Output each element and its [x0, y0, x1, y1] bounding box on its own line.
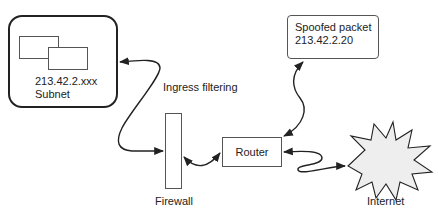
spoofed-packet-address: 213.42.2.20 — [295, 34, 378, 47]
internet-label: Internet — [367, 195, 404, 208]
host-icon-front — [48, 47, 88, 70]
subnet-address: 213.42.2.xxx — [35, 75, 97, 88]
router-node: Router — [222, 137, 282, 167]
subnet-label: Subnet — [35, 88, 70, 101]
edge-router-internet — [284, 151, 345, 172]
ingress-filtering-label: Ingress filtering — [163, 81, 238, 94]
spoofed-packet-title: Spoofed packet — [295, 21, 378, 34]
edge-spoofed-router — [284, 62, 304, 136]
firewall-node — [165, 113, 182, 189]
internet-burst-icon — [348, 122, 432, 200]
firewall-label: Firewall — [155, 195, 193, 208]
subnet-node: 213.42.2.xxx Subnet — [8, 15, 118, 108]
edge-subnet-firewall — [118, 60, 163, 151]
edge-firewall-router — [184, 153, 220, 166]
spoofed-packet-node: Spoofed packet 213.42.2.20 — [287, 15, 379, 59]
router-label: Router — [235, 146, 268, 158]
